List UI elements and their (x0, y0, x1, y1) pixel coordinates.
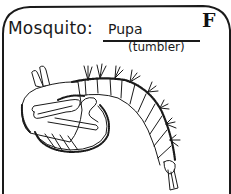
flash-card: Mosquito: Pupa (tumbler) F (0, 0, 231, 194)
pupa-illustration-icon (0, 0, 231, 194)
